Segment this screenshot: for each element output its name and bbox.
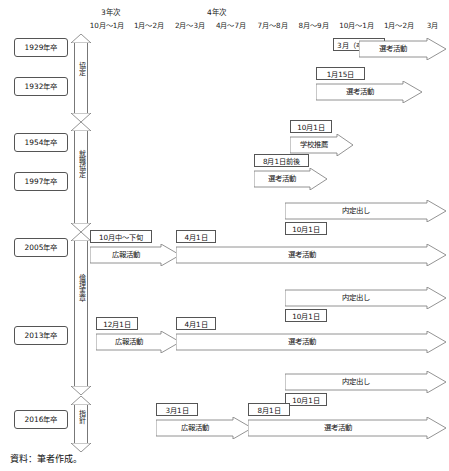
- datebox-2005-oct1: 10月1日: [285, 222, 327, 235]
- datebox-2005-oct-mid: 10月中〜下旬: [90, 230, 152, 243]
- year-box-1954[interactable]: 1954年卒: [14, 133, 68, 152]
- datebox-1954-oct1: 10月1日: [290, 120, 332, 133]
- month-axis: 10月〜1月 1月〜2月 2月〜3月 4月〜7月 7月〜8月 8月〜9月 10月…: [86, 20, 446, 30]
- arrow-label-2005-senko: 選考活動: [176, 244, 427, 266]
- era-spine-rinri-kensho: 倫理憲章: [70, 232, 92, 395]
- tier-label-4th-year: 4年次: [207, 6, 226, 17]
- source-caption: 資料：筆者作成。: [10, 452, 82, 465]
- year-box-1997[interactable]: 1997年卒: [14, 172, 68, 191]
- arrow-2005-naitei: 内定出し: [285, 200, 446, 222]
- era-spine-shushoku-kyotei: 就職協定: [70, 122, 92, 232]
- arrow-1997-senko: 選考活動: [254, 168, 327, 190]
- era-label-shishin: 指針: [78, 410, 85, 424]
- datebox-2013-oct1: 10月1日: [285, 309, 327, 322]
- arrow-label-2016-naitei: 内定出し: [285, 371, 427, 393]
- datebox-1997-aug1: 8月1日前後: [254, 154, 309, 167]
- era-label-kyotei: 協定: [78, 62, 85, 76]
- arrow-label-1929-senko: 選考活動: [359, 38, 427, 60]
- arrow-2005-senko: 選考活動: [176, 244, 446, 266]
- month-col-1: 1月〜2月: [128, 20, 170, 30]
- arrow-2013-koho: 広報活動: [96, 331, 180, 353]
- datebox-2013-dec1: 12月1日: [96, 317, 138, 330]
- month-col-2: 2月〜3月: [170, 20, 210, 30]
- datebox-2016-aug1: 8月1日: [248, 403, 290, 416]
- month-col-5: 8月〜9月: [293, 20, 334, 30]
- era-spine-shishin: 指針: [70, 396, 92, 452]
- year-box-2016[interactable]: 2016年卒: [14, 410, 68, 429]
- tier-label-3rd-year: 3年次: [101, 6, 120, 17]
- month-col-3: 4月〜7月: [210, 20, 252, 30]
- arrow-2016-koho: 広報活動: [156, 417, 252, 439]
- arrow-1954-gakko-suisen: 学校推薦: [290, 134, 353, 156]
- era-label-rinri-kensho: 倫理憲章: [78, 274, 85, 302]
- era-label-shushoku-kyotei: 就職協定: [78, 150, 85, 178]
- arrow-label-1954-gakko-suisen: 学校推薦: [290, 134, 337, 156]
- datebox-2016-oct1: 10月1日: [285, 393, 327, 406]
- era-spine-kyotei: 協定: [70, 34, 92, 122]
- arrow-label-2016-koho: 広報活動: [156, 417, 233, 439]
- arrow-label-2016-senko: 選考活動: [248, 417, 427, 439]
- arrow-2013-senko: 選考活動: [176, 331, 446, 353]
- arrow-2016-senko: 選考活動: [248, 417, 446, 439]
- month-col-7: 1月〜2月: [379, 20, 419, 30]
- datebox-2013-apr1: 4月1日: [176, 317, 216, 330]
- year-box-2005[interactable]: 2005年卒: [14, 238, 68, 257]
- datebox-1932-jan15: 1月15日: [316, 67, 365, 80]
- arrow-label-2013-koho: 広報活動: [96, 331, 161, 353]
- month-col-4: 7月〜8月: [252, 20, 293, 30]
- year-box-1929[interactable]: 1929年卒: [14, 38, 68, 57]
- timeline-diagram: 3年次 4年次 10月〜1月 1月〜2月 2月〜3月 4月〜7月 7月〜8月 8…: [0, 0, 449, 471]
- arrow-label-1997-senko: 選考活動: [254, 168, 310, 190]
- arrow-1929-senko: 選考活動: [359, 38, 446, 60]
- month-col-8: 3月: [419, 20, 446, 30]
- arrow-2005-koho: 広報活動: [90, 244, 180, 266]
- datebox-2005-apr1: 4月1日: [176, 230, 216, 243]
- arrow-label-2005-koho: 広報活動: [90, 244, 161, 266]
- arrow-label-1932-senko: 選考活動: [316, 81, 403, 103]
- arrow-label-2013-senko: 選考活動: [176, 331, 427, 353]
- year-box-1932[interactable]: 1932年卒: [14, 77, 68, 96]
- arrow-label-2005-naitei: 内定出し: [285, 200, 427, 222]
- month-col-6: 10月〜1月: [334, 20, 379, 30]
- arrow-label-2013-naitei: 内定出し: [285, 287, 427, 309]
- month-col-0: 10月〜1月: [86, 20, 128, 30]
- datebox-2016-mar1: 3月1日: [156, 403, 198, 416]
- arrow-2013-naitei: 内定出し: [285, 287, 446, 309]
- arrow-2016-naitei: 内定出し: [285, 371, 446, 393]
- arrow-1932-senko: 選考活動: [316, 81, 422, 103]
- year-box-2013[interactable]: 2013年卒: [14, 326, 68, 345]
